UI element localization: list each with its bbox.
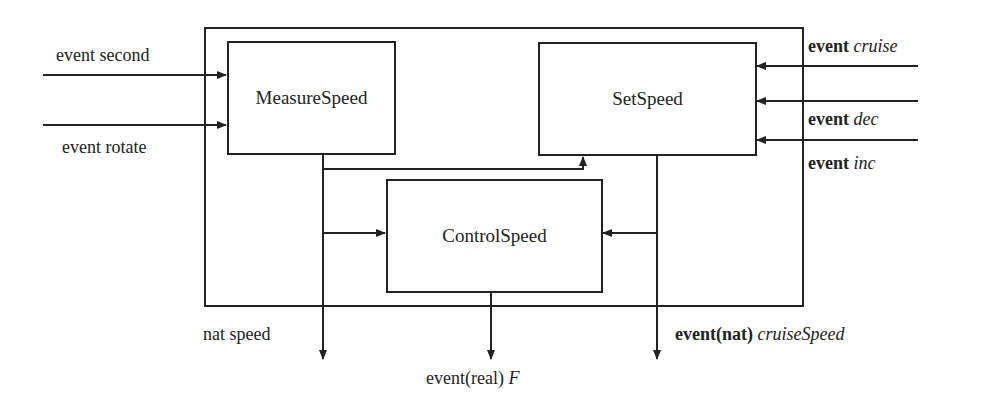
control-speed-block: ControlSpeed <box>386 179 603 293</box>
input-label-event-rotate: event rotate <box>62 137 146 158</box>
block-diagram: MeasureSpeed SetSpeed ControlSpeed event… <box>0 0 983 414</box>
control-speed-label: ControlSpeed <box>388 225 601 247</box>
event-name: F <box>508 368 519 388</box>
event-keyword: event <box>808 153 849 173</box>
event-name: cruiseSpeed <box>757 324 844 344</box>
event-keyword: event(real) <box>426 368 504 388</box>
event-name: cruise <box>853 36 897 56</box>
measure-speed-block: MeasureSpeed <box>227 41 396 155</box>
output-label-speed: nat speed <box>203 324 270 345</box>
event-keyword: event(nat) <box>675 324 753 344</box>
event-name: inc <box>853 153 875 173</box>
event-name: dec <box>853 109 878 129</box>
input-label-event-inc: event inc <box>808 153 875 174</box>
event-keyword: event <box>808 109 849 129</box>
output-label-f: event(real) F <box>426 368 519 389</box>
measure-speed-label: MeasureSpeed <box>229 87 394 109</box>
set-speed-label: SetSpeed <box>540 88 755 110</box>
input-label-event-second: event second <box>56 45 149 66</box>
set-speed-block: SetSpeed <box>538 42 757 156</box>
input-label-event-dec: event dec <box>808 109 878 130</box>
output-label-cruisespeed: event(nat) cruiseSpeed <box>675 324 844 345</box>
event-keyword: event <box>808 36 849 56</box>
input-label-event-cruise: event cruise <box>808 36 897 57</box>
